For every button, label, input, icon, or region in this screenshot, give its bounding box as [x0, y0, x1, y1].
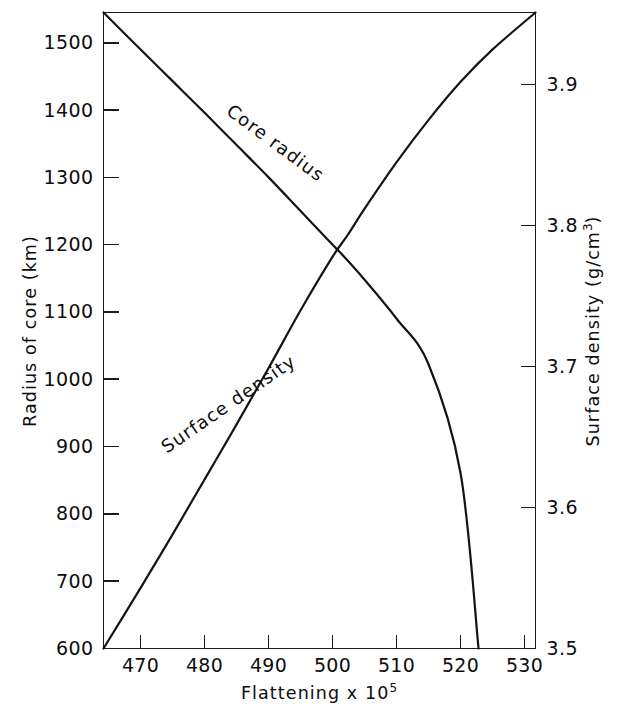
right-axis-title: Surface density (g/cm3)	[581, 215, 603, 446]
x-axis-title-text: Flattening x 105	[241, 681, 397, 703]
left-tick-label: 1100	[44, 300, 94, 322]
right-tick-label: 3.5	[547, 637, 578, 659]
right-tick-label: 3.7	[547, 355, 578, 377]
left-axis-title-text: Radius of core (km)	[20, 235, 40, 427]
right-axis-title-text: Surface density (g/cm3)	[581, 215, 603, 446]
right-tick-label: 3.9	[547, 73, 578, 95]
bottom-tick-label: 500	[314, 654, 351, 676]
left-tick-label: 1300	[44, 166, 94, 188]
left-tick-label: 1000	[44, 368, 94, 390]
left-tick-label: 800	[56, 502, 93, 524]
chart-svg: 600700800900100011001200130014001500 3.5…	[0, 0, 619, 722]
bottom-tick-label: 530	[506, 654, 543, 676]
left-tick-label: 600	[56, 637, 93, 659]
bottom-tick-label: 510	[378, 654, 415, 676]
bottom-tick-label: 520	[442, 654, 479, 676]
bottom-tick-label: 490	[250, 654, 287, 676]
bottom-tick-label: 470	[122, 654, 159, 676]
right-tick-label: 3.6	[547, 496, 578, 518]
left-tick-label: 900	[56, 435, 93, 457]
left-tick-label: 1500	[44, 31, 94, 53]
bottom-tick-label: 480	[186, 654, 223, 676]
chart-figure: 600700800900100011001200130014001500 3.5…	[0, 0, 619, 722]
right-tick-label: 3.8	[547, 214, 578, 236]
left-tick-label: 700	[56, 570, 93, 592]
left-tick-label: 1200	[44, 233, 94, 255]
x-axis-title: Flattening x 105	[241, 681, 397, 703]
left-axis-title: Radius of core (km)	[20, 235, 40, 427]
left-tick-label: 1400	[44, 99, 94, 121]
